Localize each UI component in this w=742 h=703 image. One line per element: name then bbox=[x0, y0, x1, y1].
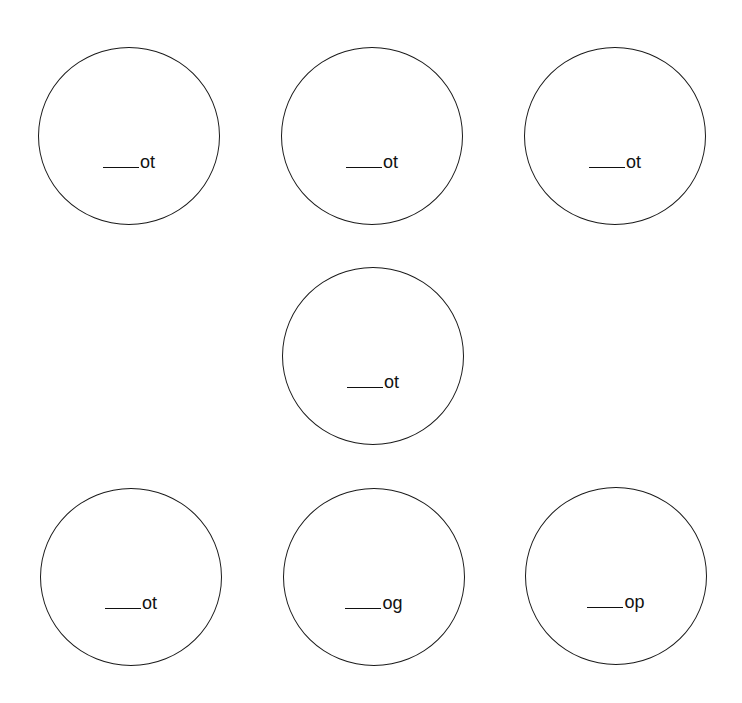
fill-in-blank-line[interactable] bbox=[346, 167, 382, 168]
word-ending: ot bbox=[383, 152, 398, 172]
fill-in-blank-line[interactable] bbox=[589, 167, 625, 168]
fill-in-blank-line[interactable] bbox=[347, 387, 383, 388]
word-circle-3: ot bbox=[524, 47, 706, 225]
word-ending: op bbox=[624, 592, 644, 612]
word-circle-2: ot bbox=[281, 47, 463, 225]
word-blank-3[interactable]: ot bbox=[525, 152, 705, 173]
word-blank-2[interactable]: ot bbox=[282, 152, 462, 173]
word-blank-6[interactable]: og bbox=[284, 593, 464, 614]
word-circle-1: ot bbox=[38, 47, 220, 225]
word-ending: ot bbox=[142, 593, 157, 613]
fill-in-blank-line[interactable] bbox=[345, 608, 381, 609]
word-blank-7[interactable]: op bbox=[526, 592, 706, 613]
word-blank-4[interactable]: ot bbox=[283, 372, 463, 393]
word-ending: ot bbox=[384, 372, 399, 392]
word-ending: ot bbox=[626, 152, 641, 172]
fill-in-blank-line[interactable] bbox=[587, 607, 623, 608]
word-circle-6: og bbox=[283, 488, 465, 666]
word-family-worksheet: ot ot ot ot ot og op bbox=[0, 0, 742, 703]
word-ending: ot bbox=[140, 152, 155, 172]
word-circle-5: ot bbox=[40, 488, 222, 666]
fill-in-blank-line[interactable] bbox=[105, 608, 141, 609]
word-blank-5[interactable]: ot bbox=[41, 593, 221, 614]
word-ending: og bbox=[382, 593, 402, 613]
word-blank-1[interactable]: ot bbox=[39, 152, 219, 173]
word-circle-7: op bbox=[525, 487, 707, 665]
fill-in-blank-line[interactable] bbox=[103, 167, 139, 168]
word-circle-4: ot bbox=[282, 267, 464, 445]
